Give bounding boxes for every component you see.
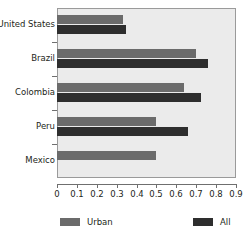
- bar-all-peru: [57, 127, 188, 136]
- x-axis-tick: [77, 184, 78, 188]
- x-axis-tick: [176, 184, 177, 188]
- bar-urban-mexico: [57, 151, 156, 160]
- x-axis-tick: [216, 184, 217, 188]
- x-axis-tick: [97, 184, 98, 188]
- bar-urban-colombia: [57, 83, 184, 92]
- bar-group: [0, 8, 246, 42]
- legend-item-urban[interactable]: Urban: [60, 216, 113, 228]
- legend-item-all[interactable]: All: [193, 216, 231, 228]
- x-axis-tick: [57, 184, 58, 188]
- bar-urban-peru: [57, 117, 156, 126]
- x-axis-tick: [236, 184, 237, 188]
- bar-group: [0, 144, 246, 178]
- bar-group: [0, 76, 246, 110]
- bar-all-united-states: [57, 25, 126, 34]
- x-axis-tick-label: 0.9: [224, 189, 246, 199]
- x-axis-line: [57, 184, 237, 185]
- bar-urban-united-states: [57, 15, 123, 24]
- bar-group: [0, 42, 246, 76]
- bar-all-colombia: [57, 93, 201, 102]
- bar-chart: United StatesBrazilColombiaPeruMexico 00…: [0, 0, 246, 238]
- legend-label-urban: Urban: [87, 217, 113, 227]
- x-axis-tick: [156, 184, 157, 188]
- bar-all-brazil: [57, 59, 208, 68]
- bar-group: [0, 110, 246, 144]
- x-axis-tick: [196, 184, 197, 188]
- bar-urban-brazil: [57, 49, 196, 58]
- x-axis-tick: [117, 184, 118, 188]
- legend-swatch-urban: [60, 218, 80, 226]
- legend-label-all: All: [220, 217, 231, 227]
- chart-legend: Urban All: [0, 216, 246, 230]
- x-axis-tick: [137, 184, 138, 188]
- legend-swatch-all: [193, 218, 213, 226]
